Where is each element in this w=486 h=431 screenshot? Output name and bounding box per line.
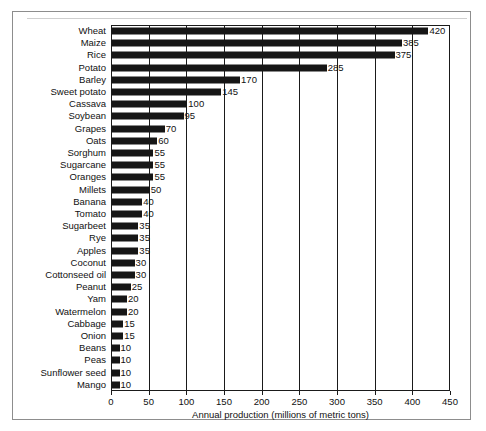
value-label: 170 — [239, 75, 257, 85]
bar — [112, 137, 157, 144]
category-label: Sorghum — [67, 148, 106, 158]
bar-row: Sugarbeet35 — [111, 220, 450, 232]
value-label: 35 — [137, 233, 150, 243]
bar — [112, 198, 142, 205]
x-tick-label-150: 150 — [216, 396, 232, 407]
value-label: 375 — [394, 50, 412, 60]
bar-row: Grapes70 — [111, 123, 450, 135]
x-tick-label-0: 0 — [108, 396, 113, 407]
category-label: Mango — [77, 380, 106, 390]
bar — [112, 125, 165, 132]
bar-row: Rye35 — [111, 232, 450, 244]
bar — [112, 308, 127, 315]
bar-row: Rice375 — [111, 49, 450, 61]
bar — [112, 186, 150, 193]
category-label: Sugarbeet — [62, 221, 106, 231]
value-label: 35 — [137, 246, 150, 256]
value-label: 10 — [119, 368, 132, 378]
bar-row: Sweet potato145 — [111, 86, 450, 98]
bar-row: Mango10 — [111, 379, 450, 391]
category-label: Grapes — [75, 124, 106, 134]
bar-row: Cabbage15 — [111, 318, 450, 330]
bar-row: Apples35 — [111, 245, 450, 257]
value-label: 40 — [141, 197, 154, 207]
bar — [112, 259, 135, 266]
category-label: Apples — [77, 246, 106, 256]
x-tick-50 — [149, 391, 150, 395]
category-label: Rye — [89, 233, 106, 243]
x-tick-100 — [186, 391, 187, 395]
bar-row: Oranges55 — [111, 171, 450, 183]
value-label: 35 — [137, 221, 150, 231]
category-label: Banana — [73, 197, 106, 207]
bar-row: Potato285 — [111, 62, 450, 74]
value-label: 30 — [134, 258, 147, 268]
category-label: Beans — [79, 343, 106, 353]
category-label: Peas — [84, 355, 106, 365]
value-label: 40 — [141, 209, 154, 219]
value-label: 25 — [130, 282, 143, 292]
bar-row: Peas10 — [111, 354, 450, 366]
bar — [112, 211, 142, 218]
x-tick-label-400: 400 — [404, 396, 420, 407]
x-tick-450 — [450, 391, 451, 395]
bar-row: Banana40 — [111, 196, 450, 208]
value-label: 10 — [119, 355, 132, 365]
bar-rows: Wheat420Maize385Rice375Potato285Barley17… — [111, 25, 450, 391]
value-label: 15 — [122, 331, 135, 341]
bar — [112, 223, 138, 230]
bar — [112, 272, 135, 279]
bar-row: Cottonseed oil30 — [111, 269, 450, 281]
bar — [112, 101, 187, 108]
bar-row: Watermelon20 — [111, 306, 450, 318]
scan-artifact-line — [27, 18, 467, 19]
category-label: Cottonseed oil — [45, 270, 106, 280]
category-label: Sunflower seed — [41, 368, 106, 378]
bar-row: Peanut25 — [111, 281, 450, 293]
category-label: Oranges — [70, 172, 106, 182]
x-tick-300 — [337, 391, 338, 395]
x-tick-label-350: 350 — [367, 396, 383, 407]
bar — [112, 284, 131, 291]
value-label: 95 — [183, 111, 196, 121]
x-tick-200 — [262, 391, 263, 395]
value-label: 70 — [164, 124, 177, 134]
bar-row: Wheat420 — [111, 25, 450, 37]
category-label: Coconut — [71, 258, 106, 268]
category-label: Millets — [79, 185, 106, 195]
value-label: 15 — [122, 319, 135, 329]
category-label: Yam — [87, 294, 106, 304]
bar-row: Oats60 — [111, 135, 450, 147]
bar-row: Cassava100 — [111, 98, 450, 110]
category-label: Potato — [79, 63, 106, 73]
x-tick-350 — [375, 391, 376, 395]
x-tick-label-100: 100 — [178, 396, 194, 407]
category-label: Watermelon — [55, 307, 106, 317]
category-label: Tomato — [75, 209, 106, 219]
value-label: 385 — [401, 38, 419, 48]
category-label: Rice — [87, 50, 106, 60]
value-label: 145 — [220, 87, 238, 97]
value-label: 285 — [326, 63, 344, 73]
x-tick-label-300: 300 — [329, 396, 345, 407]
category-label: Peanut — [76, 282, 106, 292]
bar — [112, 174, 153, 181]
bar-row: Soybean95 — [111, 110, 450, 122]
x-tick-label-200: 200 — [254, 396, 270, 407]
value-label: 60 — [156, 136, 169, 146]
bar-row: Maize385 — [111, 37, 450, 49]
value-label: 20 — [126, 294, 139, 304]
bar-row: Coconut30 — [111, 257, 450, 269]
bar — [112, 52, 395, 59]
x-tick-150 — [224, 391, 225, 395]
category-label: Oats — [86, 136, 106, 146]
bar-row: Millets50 — [111, 184, 450, 196]
bar — [112, 235, 138, 242]
bar — [112, 247, 138, 254]
value-label: 20 — [126, 307, 139, 317]
x-tick-label-250: 250 — [291, 396, 307, 407]
bar-row: Sugarcane55 — [111, 159, 450, 171]
x-tick-250 — [299, 391, 300, 395]
category-label: Sweet potato — [51, 87, 106, 97]
bar — [112, 296, 127, 303]
